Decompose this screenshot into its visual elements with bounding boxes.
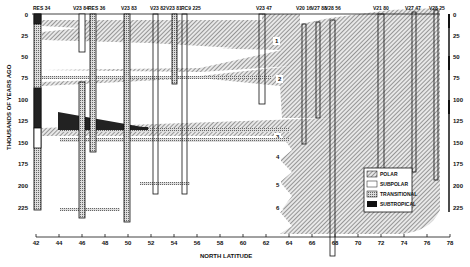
svg-text:V23 82: V23 82 [150,5,166,11]
svg-text:70: 70 [355,240,362,246]
svg-text:150: 150 [453,140,464,146]
svg-text:44: 44 [56,240,63,246]
svg-text:68: 68 [332,240,339,246]
svg-text:SUBTROPICAL: SUBTROPICAL [380,201,416,207]
svg-text:64: 64 [286,240,293,246]
svg-text:25: 25 [453,33,460,39]
svg-text:100: 100 [18,97,29,103]
svg-text:V21 80: V21 80 [373,5,389,11]
svg-text:75: 75 [453,75,460,81]
svg-text:200: 200 [453,183,464,189]
svg-text:50: 50 [453,54,460,60]
svg-text:78: 78 [447,240,454,246]
x-axis: 42 44 46 48 50 52 54 56 58 60 62 64 66 6… [33,234,454,259]
svg-text:RES 36: RES 36 [88,5,105,11]
svg-text:V28 25: V28 25 [429,5,445,11]
svg-text:175: 175 [18,161,29,167]
svg-text:V23 81: V23 81 [166,5,182,11]
svg-text:42: 42 [33,240,40,246]
paleoclimate-diagram: 1 2 3 4 5 6 [0,0,470,267]
svg-text:58: 58 [217,240,224,246]
svg-text:125: 125 [18,118,29,124]
svg-text:54: 54 [171,240,178,246]
svg-text:46: 46 [79,240,86,246]
svg-text:V23 84: V23 84 [73,5,89,11]
svg-text:48: 48 [102,240,109,246]
svg-text:THOUSANDS OF YEARS AGO: THOUSANDS OF YEARS AGO [6,64,12,150]
svg-text:V20 16: V20 16 [296,5,312,11]
svg-text:NORTH LATITUDE: NORTH LATITUDE [200,253,252,259]
svg-text:72: 72 [378,240,385,246]
svg-text:TRANSITIONAL: TRANSITIONAL [380,191,417,197]
svg-text:225: 225 [453,205,464,211]
svg-text:0: 0 [25,12,29,18]
svg-text:56: 56 [194,240,201,246]
svg-text:V28 56: V28 56 [325,5,341,11]
svg-text:V23 47: V23 47 [256,5,272,11]
svg-text:RC9 225: RC9 225 [181,5,201,11]
svg-text:150: 150 [18,140,29,146]
svg-text:100: 100 [453,97,464,103]
svg-text:52: 52 [148,240,155,246]
svg-text:225: 225 [18,205,29,211]
svg-text:76: 76 [424,240,431,246]
svg-text:RES 34: RES 34 [33,5,50,11]
svg-text:POLAR: POLAR [380,171,398,177]
svg-text:V27 47: V27 47 [405,5,421,11]
svg-text:0: 0 [453,12,457,18]
y-axis-right: 0 25 50 75 100 125 150 175 200 225 [448,12,464,212]
svg-text:V23 83: V23 83 [121,5,137,11]
svg-text:175: 175 [453,161,464,167]
svg-text:62: 62 [263,240,270,246]
legend: POLAR SUBPOLAR TRANSITIONAL SUBTROPICAL [364,168,417,212]
svg-text:25: 25 [21,33,28,39]
svg-text:66: 66 [309,240,316,246]
svg-text:74: 74 [401,240,408,246]
svg-text:50: 50 [21,54,28,60]
y-axis-left: 0 25 50 75 100 125 150 175 200 225 THOUS… [6,12,29,211]
svg-text:125: 125 [453,118,464,124]
svg-text:75: 75 [21,75,28,81]
svg-text:60: 60 [240,240,247,246]
svg-text:200: 200 [18,183,29,189]
core-labels: RES 34 V23 84 RES 36 V23 83 V23 82 V23 8… [33,5,445,11]
svg-text:50: 50 [125,240,132,246]
svg-text:SUBPOLAR: SUBPOLAR [380,181,408,187]
